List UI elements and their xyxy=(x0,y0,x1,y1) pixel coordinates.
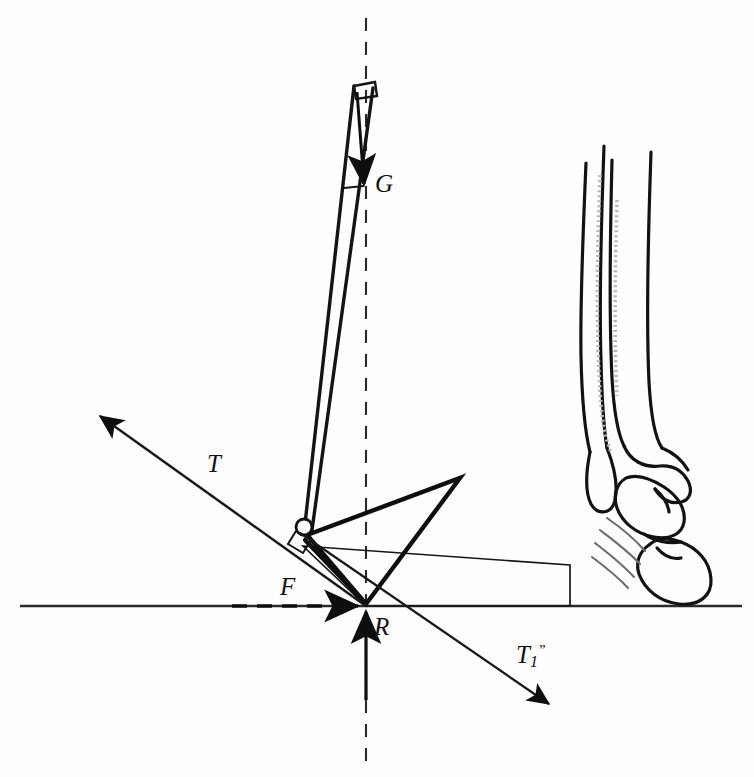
label-reaction-R: R xyxy=(374,613,389,641)
label-T1-subscript: 1 xyxy=(530,653,538,670)
label-gravity-G: G xyxy=(375,170,393,198)
vector-G-gravity xyxy=(357,92,364,184)
force-vectors-layer xyxy=(0,0,754,777)
label-friction-F: F xyxy=(280,573,295,601)
label-T1-base: T xyxy=(516,641,530,668)
label-T1-prime: ˮ xyxy=(538,642,546,658)
vector-T-tendon xyxy=(100,416,366,606)
label-tendon-T: T xyxy=(207,450,221,478)
label-tendon-component-T1: T1ˮ xyxy=(516,641,546,671)
vector-T1-component xyxy=(300,533,549,704)
figure-canvas: G T F R T1ˮ xyxy=(0,0,754,777)
